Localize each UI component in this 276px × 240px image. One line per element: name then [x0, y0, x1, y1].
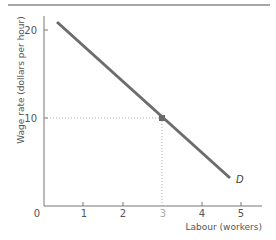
y-axis-title: Wage rate (dollars per hour)	[16, 16, 26, 144]
curve-label-d: D	[236, 174, 244, 185]
x-label-2: 2	[120, 208, 126, 219]
x-label-3: 3	[160, 208, 166, 219]
x-label-4: 4	[199, 208, 205, 219]
y-label-10: 10	[24, 113, 37, 124]
x-label-0: 0	[34, 208, 40, 219]
equilibrium-point	[159, 115, 165, 121]
x-label-1: 1	[81, 208, 87, 219]
demand-curve	[57, 22, 230, 178]
x-label-5: 5	[238, 208, 244, 219]
y-label-20: 20	[24, 25, 37, 36]
chart: 20 10 0 1 2 3 4 5 Labour (workers) Wage …	[0, 0, 276, 240]
x-axis-title: Labour (workers)	[186, 222, 262, 232]
